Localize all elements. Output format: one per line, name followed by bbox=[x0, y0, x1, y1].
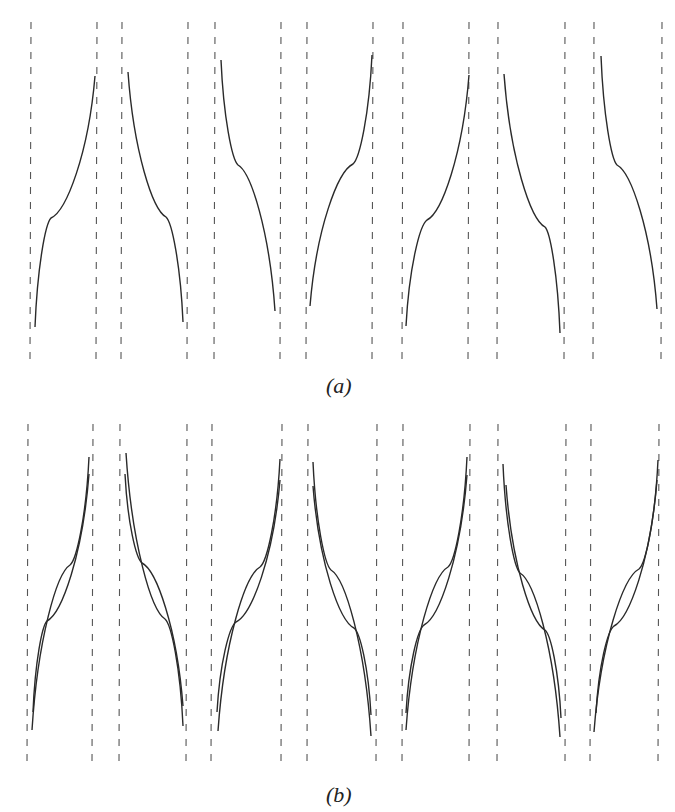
cell-a-5 bbox=[402, 22, 469, 360]
cell-a-6 bbox=[497, 22, 565, 360]
curve-2 bbox=[596, 480, 657, 713]
asymptote-left bbox=[119, 424, 120, 765]
cell-b-7 bbox=[590, 424, 659, 765]
panel-a-plot bbox=[30, 22, 662, 360]
asymptote-right bbox=[564, 22, 565, 360]
panel-b-plot bbox=[27, 424, 659, 765]
asymptote-right bbox=[661, 22, 662, 360]
asymptote-left bbox=[214, 22, 215, 360]
figure-canvas bbox=[0, 0, 675, 812]
asymptote-right bbox=[658, 424, 659, 765]
curve-2 bbox=[125, 474, 183, 706]
curve-1 bbox=[218, 459, 280, 731]
curve-1 bbox=[601, 56, 657, 309]
cell-a-1 bbox=[30, 22, 97, 360]
asymptote-left bbox=[27, 424, 28, 765]
asymptote-right bbox=[468, 22, 469, 360]
curve-1 bbox=[128, 72, 183, 322]
cell-a-3 bbox=[214, 22, 281, 360]
curve-1 bbox=[504, 74, 560, 333]
asymptote-left bbox=[306, 22, 307, 360]
asymptote-right bbox=[281, 424, 282, 765]
asymptote-left bbox=[402, 22, 403, 360]
curve-1 bbox=[32, 457, 89, 730]
asymptote-left bbox=[30, 22, 31, 360]
curve-2 bbox=[406, 475, 467, 713]
curve-1 bbox=[310, 55, 372, 306]
panel-b-label: (b) bbox=[326, 782, 352, 808]
asymptote-left bbox=[307, 424, 308, 765]
curve-1 bbox=[221, 60, 275, 311]
asymptote-left bbox=[211, 424, 212, 765]
asymptote-right bbox=[96, 22, 97, 360]
asymptote-right bbox=[376, 424, 377, 765]
curve-1 bbox=[313, 462, 371, 736]
asymptote-left bbox=[497, 424, 498, 765]
curve-1 bbox=[503, 464, 560, 737]
cell-a-4 bbox=[306, 22, 373, 360]
asymptote-left bbox=[593, 22, 594, 360]
panel-a-label: (a) bbox=[326, 373, 352, 399]
cell-b-2 bbox=[119, 424, 187, 765]
asymptote-left bbox=[402, 424, 403, 765]
asymptote-right bbox=[186, 424, 187, 765]
asymptote-right bbox=[187, 22, 188, 360]
curve-2 bbox=[313, 486, 371, 715]
cell-a-2 bbox=[121, 22, 188, 360]
asymptote-right bbox=[469, 424, 470, 765]
cell-b-1 bbox=[27, 424, 93, 765]
curve-1 bbox=[406, 457, 467, 730]
curve-2 bbox=[506, 485, 561, 718]
asymptote-right bbox=[372, 22, 373, 360]
curve-1 bbox=[406, 75, 469, 326]
asymptote-left bbox=[121, 22, 122, 360]
curve-1 bbox=[35, 76, 95, 327]
cell-b-4 bbox=[307, 424, 377, 765]
curve-1 bbox=[594, 460, 658, 732]
cell-b-6 bbox=[497, 424, 566, 765]
asymptote-left bbox=[497, 22, 498, 360]
cell-b-5 bbox=[402, 424, 470, 765]
asymptote-right bbox=[92, 424, 93, 765]
curve-1 bbox=[126, 453, 183, 726]
curve-2 bbox=[217, 480, 280, 712]
asymptote-right bbox=[565, 424, 566, 765]
asymptote-right bbox=[280, 22, 281, 360]
cell-a-7 bbox=[593, 22, 662, 360]
cell-b-3 bbox=[211, 424, 282, 765]
curve-2 bbox=[33, 474, 89, 712]
asymptote-left bbox=[590, 424, 591, 765]
